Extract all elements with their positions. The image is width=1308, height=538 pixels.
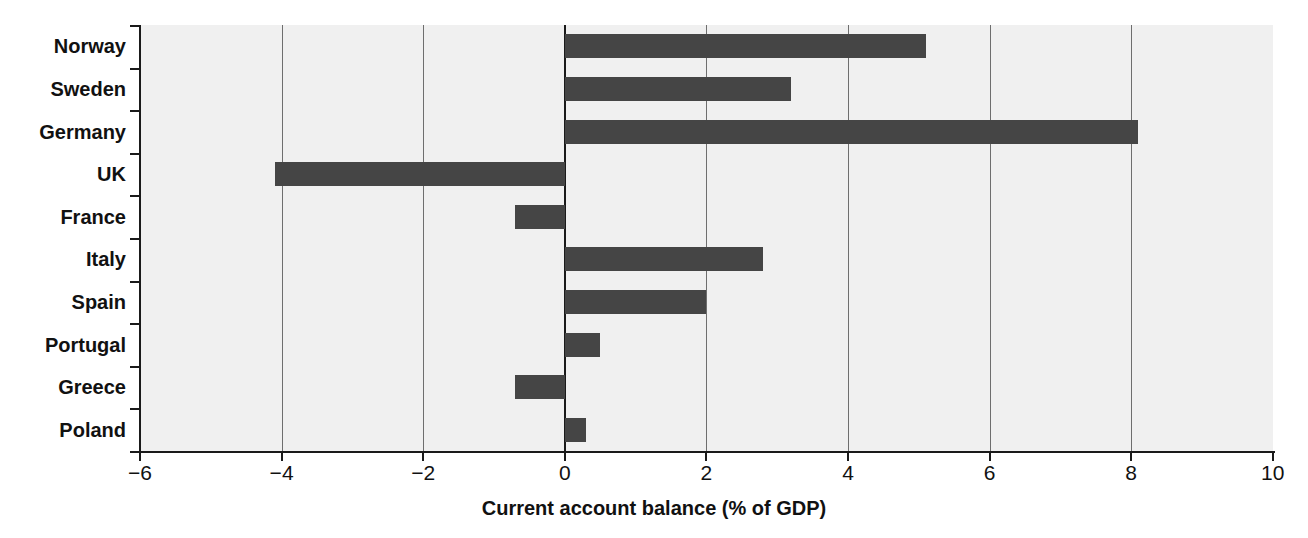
x-tick (564, 452, 566, 461)
bar-chart: Current account balance (% of GDP) Norwa… (0, 0, 1308, 538)
y-tick (130, 68, 140, 70)
y-tick (130, 238, 140, 240)
y-tick (130, 153, 140, 155)
y-axis-label-spain: Spain (72, 292, 126, 312)
bar-uk (275, 162, 565, 186)
y-axis-label-portugal: Portugal (45, 335, 126, 355)
x-axis-tick-label: −2 (411, 462, 435, 483)
gridline-x-8 (1131, 25, 1132, 452)
x-axis-tick-label: 10 (1261, 462, 1284, 483)
x-axis-title: Current account balance (% of GDP) (0, 498, 1308, 518)
y-tick (130, 408, 140, 410)
bar-germany (565, 120, 1138, 144)
x-axis-tick-label: 6 (984, 462, 996, 483)
x-tick (705, 452, 707, 461)
x-axis-tick-label: 0 (559, 462, 571, 483)
x-tick (989, 452, 991, 461)
gridline-x-4 (848, 25, 849, 452)
y-tick (130, 25, 140, 27)
x-tick (281, 452, 283, 461)
x-tick (847, 452, 849, 461)
x-axis-tick-label: 8 (1125, 462, 1137, 483)
y-axis-label-sweden: Sweden (50, 79, 126, 99)
y-axis-label-germany: Germany (39, 122, 126, 142)
bar-spain (565, 290, 707, 314)
bar-norway (565, 34, 926, 58)
bar-italy (565, 247, 763, 271)
x-tick (1272, 452, 1274, 461)
y-tick (130, 366, 140, 368)
plot-area (140, 25, 1273, 452)
bar-poland (565, 418, 586, 442)
bar-france (515, 205, 565, 229)
x-axis-tick-label: −4 (270, 462, 294, 483)
x-tick (422, 452, 424, 461)
y-tick (130, 323, 140, 325)
x-axis-tick-label: 2 (701, 462, 713, 483)
y-axis-label-greece: Greece (58, 377, 126, 397)
y-axis-label-poland: Poland (59, 420, 126, 440)
x-tick (139, 452, 141, 461)
x-tick (1130, 452, 1132, 461)
y-tick (130, 110, 140, 112)
y-axis-label-france: France (60, 207, 126, 227)
gridline-x--2 (423, 25, 424, 452)
y-axis-label-italy: Italy (86, 249, 126, 269)
x-axis-tick-label: −6 (128, 462, 152, 483)
x-axis-tick-label: 4 (842, 462, 854, 483)
bar-sweden (565, 77, 792, 101)
bar-greece (515, 375, 565, 399)
gridline-x--4 (282, 25, 283, 452)
gridline-x-6 (990, 25, 991, 452)
y-axis-label-norway: Norway (54, 36, 126, 56)
y-axis-label-uk: UK (97, 164, 126, 184)
bar-portugal (565, 333, 600, 357)
y-tick (130, 281, 140, 283)
y-tick (130, 195, 140, 197)
